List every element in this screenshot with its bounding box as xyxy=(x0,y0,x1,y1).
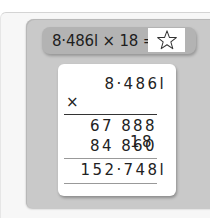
multiplicand: 8·486l xyxy=(64,74,166,94)
partial-product-2: 84 860 xyxy=(64,136,157,156)
star-icon xyxy=(156,29,178,51)
multiply-operator: × xyxy=(66,92,79,112)
partial-product-1: 67 888 xyxy=(64,116,157,136)
problem-expression: 8·486l × 18 = xyxy=(52,30,155,52)
bottom-rule xyxy=(64,183,157,184)
middle-rule xyxy=(64,158,157,159)
multiplier-row: × 18 xyxy=(64,92,166,112)
top-rule xyxy=(64,114,157,115)
result: 152·748l xyxy=(62,160,166,180)
answer-box[interactable] xyxy=(148,28,185,52)
